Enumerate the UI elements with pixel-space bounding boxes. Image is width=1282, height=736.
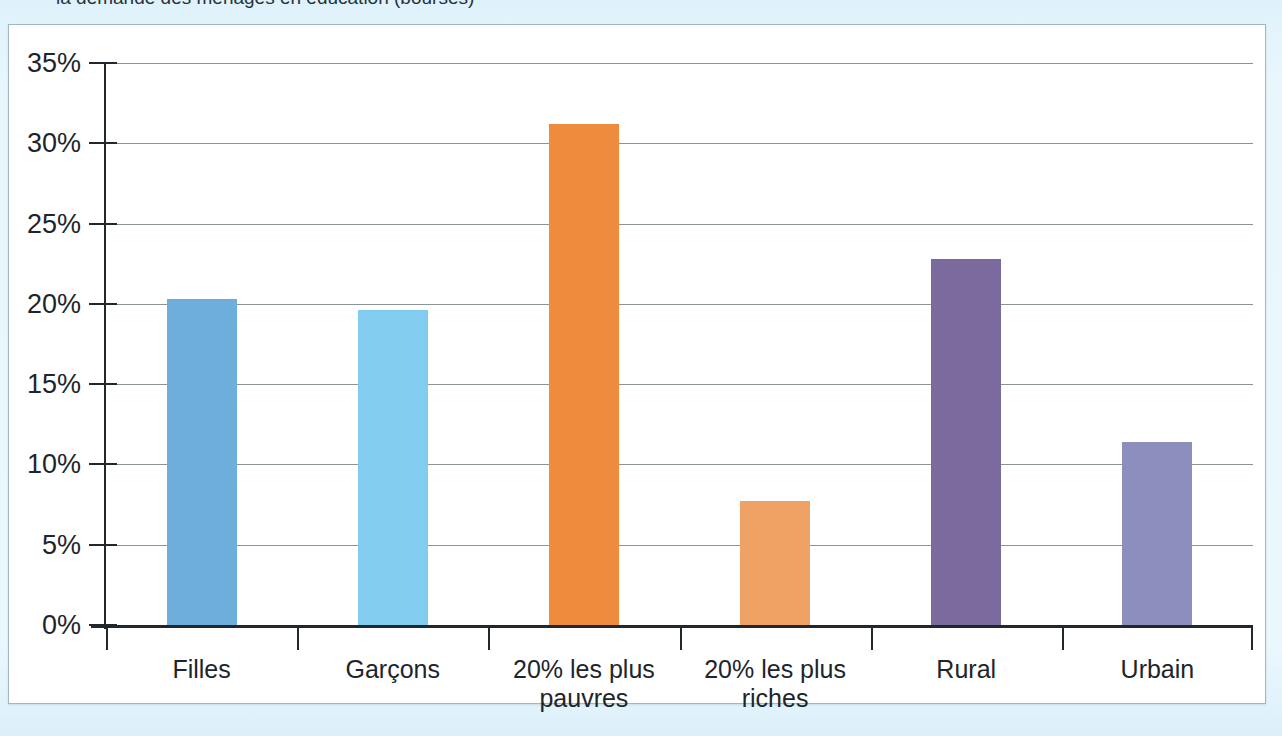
y-axis-label: 35% xyxy=(9,48,81,79)
x-axis-label-rural: Rural xyxy=(871,655,1062,684)
figure-caption: la demande des ménages en éducation (bou… xyxy=(0,0,1282,13)
bar-filles[interactable] xyxy=(167,299,237,625)
x-tick-mark xyxy=(488,628,490,650)
x-axis-label-20-les-plus-pauvres: 20% les pluspauvres xyxy=(488,655,679,713)
x-tick-mark xyxy=(297,628,299,650)
bar-fill xyxy=(1122,442,1192,625)
y-axis-label: 30% xyxy=(9,128,81,159)
bar-chart-plot: 0%5%10%15%20%25%30%35% FillesGarçons20% … xyxy=(9,25,1265,703)
y-axis-label: 5% xyxy=(9,529,81,560)
bars-group xyxy=(106,25,1253,703)
bar-category-slot xyxy=(1062,25,1253,703)
y-axis-label: 15% xyxy=(9,369,81,400)
x-tick-mark xyxy=(680,628,682,650)
bar-category-slot xyxy=(871,25,1062,703)
bar-20-les-plus-pauvres[interactable] xyxy=(549,124,619,625)
bar-20-les-plus-riches[interactable] xyxy=(740,501,810,625)
bar-category-slot xyxy=(106,25,297,703)
bar-urbain[interactable] xyxy=(1122,442,1192,625)
bar-fill xyxy=(740,501,810,625)
bar-gar-ons[interactable] xyxy=(358,310,428,625)
figure-caption-text: la demande des ménages en éducation (bou… xyxy=(56,0,474,9)
y-axis-label: 10% xyxy=(9,449,81,480)
x-axis-label-filles: Filles xyxy=(106,655,297,684)
y-axis-label: 0% xyxy=(9,610,81,641)
bar-rural[interactable] xyxy=(931,259,1001,625)
x-tick-mark xyxy=(1062,628,1064,650)
bar-category-slot xyxy=(488,25,679,703)
x-axis-label-urbain: Urbain xyxy=(1062,655,1253,684)
bar-category-slot xyxy=(297,25,488,703)
x-axis-label-20-les-plus-riches: 20% les plusriches xyxy=(680,655,871,713)
bar-fill xyxy=(358,310,428,625)
x-tick-mark xyxy=(1251,628,1253,650)
bar-category-slot xyxy=(680,25,871,703)
x-tick-mark xyxy=(871,628,873,650)
x-tick-mark xyxy=(106,628,108,650)
bar-fill xyxy=(549,124,619,625)
x-axis-line xyxy=(91,625,1253,628)
bar-fill xyxy=(167,299,237,625)
y-axis-label: 20% xyxy=(9,288,81,319)
bar-fill xyxy=(931,259,1001,625)
x-axis-label-gar-ons: Garçons xyxy=(297,655,488,684)
y-axis-label: 25% xyxy=(9,208,81,239)
chart-panel: 0%5%10%15%20%25%30%35% FillesGarçons20% … xyxy=(8,24,1266,704)
